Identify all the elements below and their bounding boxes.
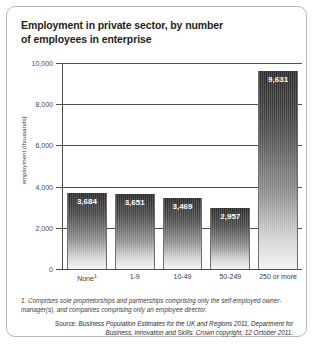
source-note: Source: Business Population Estimates fo… (47, 319, 293, 337)
x-tick-label: None1 (63, 273, 111, 282)
x-axis-line (62, 269, 302, 270)
source-text: Business Population Estimates for the UK… (79, 320, 293, 336)
y-tick-label: 2,000 (7, 224, 53, 231)
y-tick-label: 6,000 (7, 142, 53, 149)
x-tick-label: 50-249 (206, 273, 254, 280)
bar-value-label: 9,631 (259, 75, 297, 84)
bar-value-label: 3,684 (68, 197, 106, 206)
y-tick-label: 10,000 (7, 60, 53, 67)
bar-slot: 3,651 (111, 63, 159, 269)
bar: 2,957 (210, 208, 250, 269)
x-tick-label: 250 or more (254, 273, 302, 280)
bar: 3,684 (67, 193, 107, 269)
y-tick-label: 0 (7, 266, 53, 273)
bar-value-label: 3,469 (164, 202, 202, 211)
chart-card: Employment in private sector, by number … (6, 6, 307, 337)
source-prefix: Source: (55, 320, 77, 327)
bar-slot: 3,684 (63, 63, 111, 269)
y-tick-label: 4,000 (7, 183, 53, 190)
bars-group: 3,6843,6513,4692,9579,631 (63, 63, 302, 269)
x-tick-label: 10-49 (159, 273, 207, 280)
bar: 3,469 (163, 198, 203, 269)
bar-slot: 9,631 (254, 63, 302, 269)
bar: 9,631 (258, 71, 298, 269)
chart-plot-area: employment (thousands) 02,0004,0006,0008… (7, 7, 308, 338)
bar-slot: 3,469 (159, 63, 207, 269)
bar-value-label: 2,957 (211, 212, 249, 221)
bar-slot: 2,957 (206, 63, 254, 269)
y-axis-label: employment (thousands) (20, 91, 27, 211)
bar: 3,651 (115, 194, 155, 269)
bar-value-label: 3,651 (116, 198, 154, 207)
footnote: 1. Comprises sole proprietorships and pa… (21, 296, 293, 314)
x-tick-label: 1-9 (111, 273, 159, 280)
y-tick-label: 8,000 (7, 101, 53, 108)
